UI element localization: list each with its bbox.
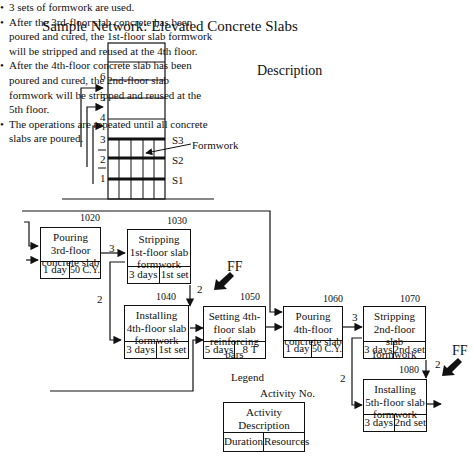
activity-resources: 50 C.Y.: [312, 341, 342, 357]
lag-label: 2: [435, 358, 441, 370]
ff-label: FF: [227, 259, 243, 275]
description-bullet: After the 4th-floor concrete slab has be…: [0, 58, 215, 116]
activity-number-1060: 1060: [323, 293, 343, 304]
legend-box: ActivityDescription DurationResources: [223, 402, 305, 452]
activity-resources: 2nd set: [395, 415, 426, 431]
description-bullet: 3 sets of formwork are used.: [0, 0, 215, 15]
activity-node-1070[interactable]: Stripping2nd-floor slabformwork 3 days2n…: [363, 306, 426, 359]
activity-number-1050: 1050: [240, 291, 260, 302]
activity-resources: 8 T: [235, 342, 265, 358]
activity-duration: 5 days: [204, 342, 235, 358]
lag-label: 2: [340, 372, 346, 384]
activity-node-1050[interactable]: Setting 4th-floor slabreinforcing bars 5…: [203, 306, 266, 359]
activity-node-1060[interactable]: Pouring4th-floorconcrete slab 1 day50 C.…: [283, 306, 343, 358]
activity-duration: 3 days: [364, 342, 394, 358]
activity-node-1030[interactable]: Stripping1st-floor slabformwork 3 days1s…: [127, 229, 191, 284]
activity-description: Stripping1st-floor slabformwork: [128, 230, 190, 271]
lag-label: 2: [97, 293, 103, 305]
activity-duration: 1 day: [284, 341, 312, 357]
slab-label-s1: S1: [172, 174, 184, 186]
activity-duration: 3 days: [128, 267, 160, 283]
activity-node-1040[interactable]: Installing4th-floor slabformwork 3 days1…: [124, 305, 189, 359]
ff-label: FF: [452, 343, 468, 359]
description-list: 3 sets of formwork are used. After the 3…: [0, 0, 215, 146]
activity-number-1080: 1080: [399, 364, 419, 375]
legend-activity-no: Activity No.: [260, 387, 315, 399]
lag-label: 2: [197, 283, 203, 295]
lag-label: 3: [109, 242, 115, 254]
activity-resources: 50 C.Y.: [70, 262, 100, 278]
floor-label-2: 2: [100, 153, 106, 165]
activity-node-1080[interactable]: Installing5th-floor slabformwork 3 days2…: [363, 379, 427, 432]
slab-label-s2: S2: [172, 154, 184, 166]
ff-arrow-icon: [442, 358, 462, 376]
description-heading: Description: [257, 63, 322, 79]
activity-number-1030: 1030: [167, 215, 187, 226]
description-bullet: The operations are repeated until all co…: [0, 117, 215, 146]
floor-label-1: 1: [100, 172, 106, 184]
activity-resources: 1st set: [160, 267, 191, 283]
legend-heading: Legend: [231, 371, 264, 383]
activity-resources: 2nd set: [394, 342, 425, 358]
activity-number-1070: 1070: [400, 293, 420, 304]
activity-duration: 1 day: [41, 262, 70, 278]
activity-resources: 1st set: [157, 342, 188, 358]
legend-duration: Duration: [224, 433, 264, 451]
legend-description: ActivityDescription: [224, 403, 304, 431]
activity-number-1020: 1020: [80, 212, 100, 223]
lag-label: 3: [352, 311, 358, 323]
activity-node-1020[interactable]: Pouring3rd-floorconcrete slab 1 day50 C.…: [40, 227, 101, 279]
legend-resources: Resources: [264, 433, 309, 451]
activity-number-1040: 1040: [156, 291, 176, 302]
activity-duration: 3 days: [125, 342, 157, 358]
description-bullet: After the 3rd-floor slab concrete has be…: [0, 15, 215, 59]
activity-duration: 3 days: [364, 415, 395, 431]
